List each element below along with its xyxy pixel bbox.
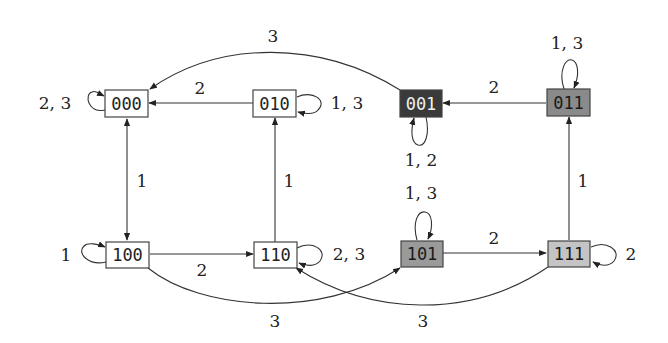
edge-label-110-010: 1 (284, 171, 295, 191)
node-001: 001 (400, 90, 442, 117)
svg-text:010: 010 (259, 94, 290, 114)
edge-label-000-100: 1 (137, 171, 148, 191)
edge-label-111-011: 1 (578, 171, 589, 191)
edge-label-111-111: 2 (626, 244, 637, 264)
edge-label-101-111: 2 (489, 228, 500, 248)
edge-000-000 (88, 91, 105, 110)
edge-label-011-001: 2 (489, 77, 500, 97)
edge-label-000-000: 2, 3 (39, 93, 71, 113)
node-011: 011 (547, 89, 590, 116)
edge-label-001-000: 3 (268, 26, 279, 46)
edge-label-111-110: 3 (418, 311, 429, 331)
edge-111-111 (591, 245, 616, 266)
edge-100-101 (148, 268, 400, 303)
edge-label-100-100: 1 (61, 245, 72, 265)
edge-100-100 (82, 244, 106, 263)
edge-010-010 (297, 95, 321, 114)
edge-label-110-110: 2, 3 (333, 244, 365, 264)
edge-110-110 (297, 245, 322, 265)
svg-text:111: 111 (554, 244, 585, 264)
edge-101-101 (415, 212, 431, 240)
svg-text:100: 100 (112, 245, 143, 265)
svg-text:001: 001 (406, 94, 437, 114)
edge-label-101-101: 1, 3 (405, 183, 437, 203)
edge-001-001 (412, 117, 428, 145)
node-111: 111 (548, 241, 590, 267)
node-101: 101 (401, 241, 443, 267)
node-010: 010 (253, 90, 296, 117)
edge-001-000 (150, 52, 400, 90)
node-110: 110 (254, 242, 297, 268)
edge-label-011-011: 1, 3 (551, 33, 583, 53)
node-100: 100 (106, 242, 149, 268)
edge-011-011 (562, 60, 578, 89)
edge-111-110 (296, 267, 548, 305)
edge-label-001-001: 1, 2 (405, 150, 437, 170)
edge-label-010-000: 2 (195, 78, 206, 98)
edge-label-010-010: 1, 3 (331, 93, 363, 113)
svg-text:011: 011 (553, 93, 584, 113)
edge-label-100-101: 3 (270, 311, 281, 331)
node-000: 000 (105, 90, 148, 117)
svg-text:000: 000 (111, 94, 142, 114)
edge-label-100-110: 2 (197, 260, 208, 280)
svg-text:110: 110 (260, 245, 291, 265)
state-diagram: 2, 3 2 1, 3 3 1, 2 2 1, 3 1 1 1 1 2 (0, 0, 668, 343)
svg-text:101: 101 (407, 244, 438, 264)
